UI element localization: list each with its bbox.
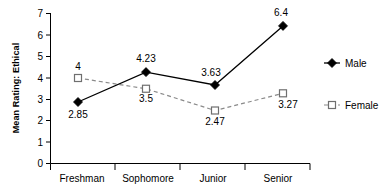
data-label-male-freshman: 2.85 — [68, 109, 88, 120]
male-marker-sophomore — [142, 68, 151, 77]
legend-female-square-icon — [329, 102, 336, 109]
y-tick-label-0: 0 — [37, 158, 43, 169]
data-label-female-freshman: 4 — [75, 61, 81, 72]
legend-male-diamond-icon — [328, 59, 337, 68]
x-category-label-junior: Junior — [199, 173, 227, 184]
y-tick-label-7: 7 — [37, 8, 43, 19]
female-line — [78, 78, 283, 111]
data-point-labels: 2.85 4.23 3.63 6.4 4 3.5 2.47 3.27 — [68, 7, 298, 127]
data-label-female-junior: 2.47 — [205, 116, 225, 127]
series-female — [75, 75, 287, 115]
x-category-label-freshman: Freshman — [59, 173, 104, 184]
data-label-female-sophomore: 3.5 — [139, 93, 153, 104]
female-marker-freshman — [75, 75, 82, 82]
legend-label-female: Female — [345, 100, 379, 111]
series-male — [74, 21, 288, 106]
y-tick-label-1: 1 — [37, 137, 43, 148]
line-chart: Mean Rating: Ethical 7 6 5 4 3 2 1 0 — [0, 0, 391, 191]
y-tick-label-2: 2 — [37, 115, 43, 126]
legend-label-male: Male — [345, 58, 367, 69]
data-label-female-senior: 3.27 — [278, 99, 298, 110]
y-tick-label-3: 3 — [37, 94, 43, 105]
female-marker-junior — [212, 107, 219, 114]
y-axis-ticks: 7 6 5 4 3 2 1 0 — [37, 8, 50, 169]
data-label-male-senior: 6.4 — [274, 7, 288, 18]
male-line — [78, 26, 283, 102]
x-axis-category-labels: Freshman Sophomore Junior Senior — [59, 173, 293, 184]
y-tick-label-4: 4 — [37, 73, 43, 84]
x-category-label-sophomore: Sophomore — [122, 173, 174, 184]
data-label-male-sophomore: 4.23 — [136, 53, 156, 64]
legend-item-male[interactable]: Male — [324, 58, 367, 69]
female-marker-senior — [280, 90, 287, 97]
x-category-label-senior: Senior — [264, 173, 294, 184]
y-tick-label-6: 6 — [37, 30, 43, 41]
data-label-male-junior: 3.63 — [201, 67, 221, 78]
female-marker-sophomore — [143, 85, 150, 92]
y-axis-title: Mean Rating: Ethical — [11, 43, 21, 134]
y-tick-label-5: 5 — [37, 51, 43, 62]
x-axis-ticks — [51, 164, 311, 171]
chart-legend: Male Female — [324, 58, 379, 111]
chart-canvas: Mean Rating: Ethical 7 6 5 4 3 2 1 0 — [0, 0, 391, 191]
male-marker-freshman — [74, 98, 83, 107]
legend-item-female[interactable]: Female — [324, 100, 379, 111]
